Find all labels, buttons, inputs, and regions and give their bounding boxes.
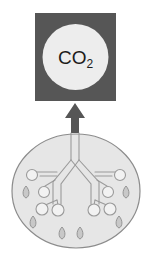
alveolus	[36, 203, 48, 215]
alveolus	[39, 187, 50, 198]
alveolus	[52, 204, 64, 216]
exhalation-arrow-icon	[65, 103, 85, 133]
co2-exhalation-diagram: CO2	[0, 0, 150, 267]
diagram-canvas: CO2	[0, 0, 150, 267]
alveolus	[103, 187, 114, 198]
gas-box-group: CO2	[35, 13, 116, 101]
lung-group	[12, 133, 140, 248]
alveolus	[88, 204, 100, 216]
alveolus	[27, 170, 38, 181]
co2-label-subscript: 2	[86, 57, 93, 71]
lung-outline	[12, 134, 140, 248]
co2-label-main: CO	[58, 47, 87, 68]
alveolus	[104, 203, 116, 215]
alveolus	[115, 170, 126, 181]
